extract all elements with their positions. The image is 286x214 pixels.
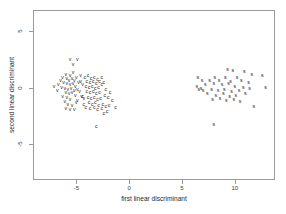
x-tick-label: -5 [74,185,79,191]
plot-frame [33,10,275,180]
x-tick-label: 0 [127,185,130,191]
x-tick-label: 10 [231,185,238,191]
x-tick [76,180,77,184]
x-tick [235,180,236,184]
x-tick-label: 5 [180,185,183,191]
y-tick-label: -5 [17,141,23,146]
y-tick [29,144,33,145]
x-tick [182,180,183,184]
y-axis-label: second linear discriminant [8,57,15,133]
x-axis-label: first linear discriminant [121,195,187,202]
y-tick-label: 5 [17,30,23,33]
x-tick [129,180,130,184]
y-tick-label: 0 [17,86,23,89]
scatter-plot-figure: vvvvvvvvvvvvvvvvvvvvvvvvvvvvvvvvvvvvvvvv… [0,0,286,214]
y-tick [29,88,33,89]
y-tick [29,31,33,32]
